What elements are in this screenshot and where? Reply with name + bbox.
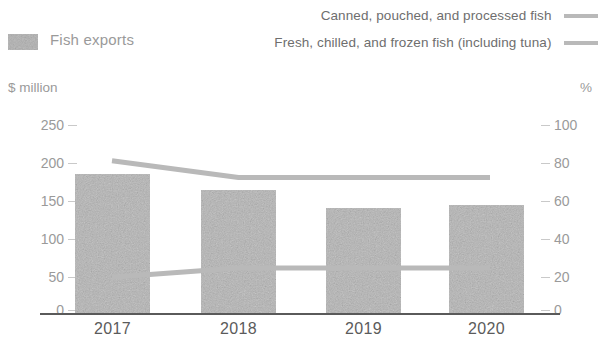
left-tick-250: 250	[41, 117, 64, 133]
tick-mark	[541, 125, 550, 126]
tick-mark	[541, 163, 550, 164]
tick-mark	[541, 310, 550, 311]
line-fresh-chilled-frozen	[112, 268, 490, 277]
legend-canned-line-icon	[564, 14, 598, 18]
legend-fresh-label: Fresh, chilled, and frozen fish (includi…	[274, 35, 551, 50]
tick-mark	[541, 201, 550, 202]
left-tick-100: 100	[41, 231, 64, 247]
x-axis-label-2019: 2019	[324, 320, 404, 338]
legend-bar-label: Fish exports	[50, 31, 134, 48]
right-tick-0: 0	[554, 302, 562, 318]
tick-mark	[68, 163, 77, 164]
legend-bar-swatch-icon	[8, 34, 38, 50]
right-tick-20: 20	[554, 269, 570, 285]
x-axis-baseline	[40, 313, 560, 315]
left-tick-200: 200	[41, 155, 64, 171]
line-canned-pouched-processed	[112, 161, 490, 178]
legend-item-canned: Canned, pouched, and processed fish	[321, 6, 598, 24]
tick-mark	[68, 125, 77, 126]
right-tick-40: 40	[554, 231, 570, 247]
legend-canned-label: Canned, pouched, and processed fish	[321, 8, 552, 23]
left-axis-title: $ million	[8, 80, 58, 95]
left-tick-50: 50	[48, 269, 64, 285]
x-axis-label-2020: 2020	[447, 320, 527, 338]
x-axis-label-2018: 2018	[199, 320, 279, 338]
bar-2019	[326, 208, 401, 313]
right-tick-80: 80	[554, 155, 570, 171]
bar-2017	[75, 174, 150, 313]
legend-item-fresh: Fresh, chilled, and frozen fish (includi…	[274, 33, 598, 51]
x-axis-label-2017: 2017	[73, 320, 153, 338]
tick-mark	[541, 277, 550, 278]
right-axis-title: %	[580, 80, 592, 95]
bar-2020	[449, 205, 524, 313]
right-tick-100: 100	[554, 117, 577, 133]
fish-exports-chart: Fish exports Canned, pouched, and proces…	[0, 0, 600, 355]
bar-2018	[201, 190, 276, 313]
left-tick-150: 150	[41, 193, 64, 209]
tick-mark	[541, 239, 550, 240]
legend-fresh-line-icon	[564, 41, 598, 45]
left-tick-0: 0	[56, 302, 64, 318]
right-tick-60: 60	[554, 193, 570, 209]
